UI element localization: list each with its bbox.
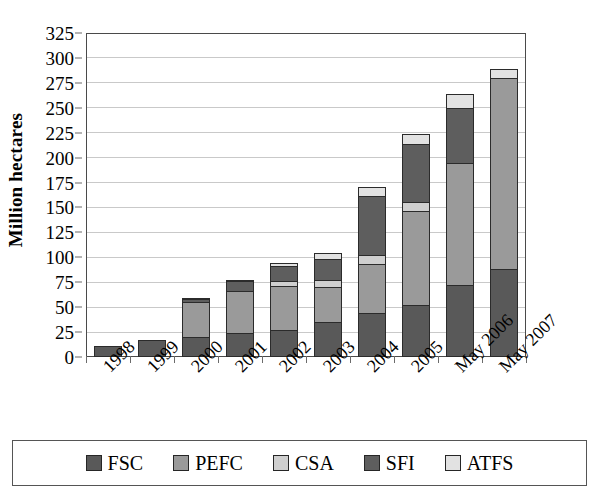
y-tick-mark [75, 232, 82, 233]
legend-swatch-sfi-icon [364, 455, 380, 471]
legend-swatch-pefc-icon [173, 455, 189, 471]
y-tick-label: 50 [55, 298, 74, 317]
y-tick-mark [75, 257, 82, 258]
legend-label: ATFS [467, 453, 514, 473]
y-tick-label: 100 [46, 248, 75, 267]
bar-segment-sfi [270, 266, 297, 282]
bar-segment-sfi [314, 259, 341, 281]
bar-segment-pefc [270, 286, 297, 332]
legend-label: PEFC [195, 453, 243, 473]
y-tick-mark [75, 332, 82, 333]
bar-segment-sfi [358, 196, 385, 256]
y-tick-label: 300 [46, 48, 75, 67]
legend-item-pefc[interactable]: PEFC [173, 453, 243, 473]
y-tick-label: 125 [46, 223, 75, 242]
bar-may-2006 [446, 95, 473, 357]
bar-segment-pefc [226, 291, 253, 335]
bar-series-group [86, 33, 526, 357]
y-tick-label: 200 [46, 148, 75, 167]
y-axis-tick-labels: 0255075100125150175200225250275300325 [30, 33, 82, 357]
y-tick-label: 325 [46, 24, 75, 43]
legend-swatch-fsc-icon [86, 455, 102, 471]
legend-swatch-csa-icon [273, 455, 289, 471]
bar-segment-sfi [446, 108, 473, 164]
bar-segment-pefc [358, 264, 385, 315]
y-axis-title: Million hectares [2, 0, 30, 360]
bar-2005 [402, 135, 429, 357]
bar-segment-pefc [490, 78, 517, 270]
y-tick-label: 250 [46, 98, 75, 117]
legend-item-atfs[interactable]: ATFS [445, 453, 514, 473]
x-axis-tick-labels: 19981999200020012002200320042005May 2006… [86, 362, 526, 432]
bar-segment-pefc [402, 211, 429, 307]
y-tick-mark [75, 207, 82, 208]
legend-item-csa[interactable]: CSA [273, 453, 334, 473]
y-tick-label: 275 [46, 73, 75, 92]
y-tick-label: 25 [55, 323, 74, 342]
y-tick-mark [75, 33, 82, 34]
y-tick-mark [75, 182, 82, 183]
bar-segment-pefc [182, 302, 209, 338]
legend-swatch-atfs-icon [445, 455, 461, 471]
legend-label: SFI [386, 453, 415, 473]
y-tick-mark [75, 82, 82, 83]
y-tick-label: 175 [46, 173, 75, 192]
y-tick-mark [75, 132, 82, 133]
y-tick-mark [75, 107, 82, 108]
y-tick-label: 0 [65, 348, 75, 367]
y-tick-mark [75, 357, 82, 358]
y-tick-mark [75, 157, 82, 158]
stacked-bar-chart: Million hectares 02550751001251501752002… [0, 0, 608, 499]
bar-segment-sfi [402, 144, 429, 204]
legend-item-fsc[interactable]: FSC [86, 453, 144, 473]
y-axis-title-label: Million hectares [5, 113, 27, 247]
legend-item-sfi[interactable]: SFI [364, 453, 415, 473]
bar-2004 [358, 188, 385, 357]
y-tick-mark [75, 282, 82, 283]
y-tick-mark [75, 307, 82, 308]
y-tick-label: 150 [46, 198, 75, 217]
bar-segment-pefc [446, 163, 473, 287]
legend-label: FSC [108, 453, 144, 473]
chart-legend: FSCPEFCCSASFIATFS [12, 440, 587, 486]
legend-label: CSA [295, 453, 334, 473]
y-tick-label: 75 [55, 273, 74, 292]
bar-segment-pefc [314, 287, 341, 324]
bar-segment-atfs [446, 94, 473, 110]
y-tick-label: 225 [46, 123, 75, 142]
y-tick-mark [75, 57, 82, 58]
